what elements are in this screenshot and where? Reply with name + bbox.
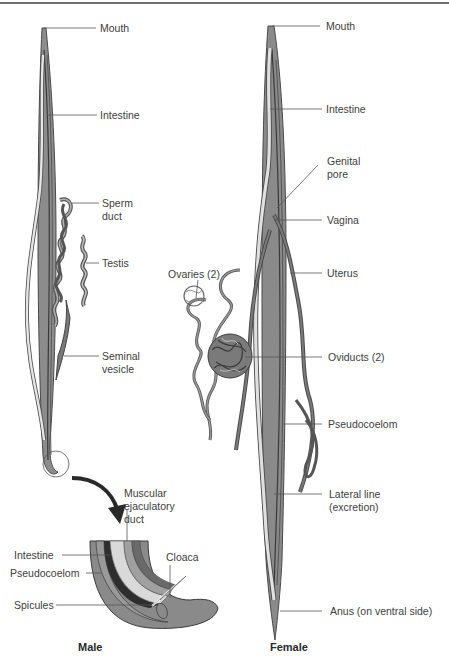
label-sperm-duct-1: Sperm bbox=[102, 197, 133, 210]
nematode-illustration bbox=[0, 0, 449, 662]
label-female-pseudocoelom: Pseudocoelom bbox=[328, 418, 397, 431]
label-muscular-1: Muscular bbox=[124, 487, 167, 500]
male-tail-detail bbox=[56, 510, 218, 628]
label-female-intestine: Intestine bbox=[326, 103, 366, 116]
label-detail-intestine: Intestine bbox=[14, 549, 54, 562]
label-lateral-line-1: Lateral line bbox=[329, 488, 380, 501]
label-sperm-duct-2: duct bbox=[102, 210, 122, 223]
caption-female: Female bbox=[270, 641, 308, 653]
label-female-mouth: Mouth bbox=[326, 20, 355, 33]
label-muscular-3: duct bbox=[124, 513, 144, 526]
label-ovaries: Ovaries (2) bbox=[168, 268, 220, 281]
label-muscular-2: ejaculatory bbox=[124, 500, 175, 513]
label-anus: Anus (on ventral side) bbox=[330, 605, 432, 618]
label-vagina: Vagina bbox=[327, 214, 359, 227]
label-testis: Testis bbox=[102, 257, 129, 270]
label-genital-pore-1: Genital bbox=[327, 155, 360, 168]
label-male-intestine: Intestine bbox=[100, 109, 140, 122]
caption-male: Male bbox=[78, 641, 102, 653]
label-seminal-vesicle-2: vesicle bbox=[102, 363, 134, 376]
female-worm bbox=[184, 26, 322, 640]
label-oviducts: Oviducts (2) bbox=[328, 351, 385, 364]
label-genital-pore-2: pore bbox=[327, 168, 348, 181]
label-uterus: Uterus bbox=[327, 267, 358, 280]
label-lateral-line-2: (excretion) bbox=[329, 501, 379, 514]
label-detail-pseudocoelom: Pseudocoelom bbox=[10, 567, 79, 580]
label-seminal-vesicle-1: Seminal bbox=[102, 350, 140, 363]
label-male-mouth: Mouth bbox=[100, 22, 129, 35]
label-spicules: Spicules bbox=[14, 599, 54, 612]
male-worm bbox=[27, 28, 126, 524]
label-cloaca: Cloaca bbox=[166, 551, 199, 564]
